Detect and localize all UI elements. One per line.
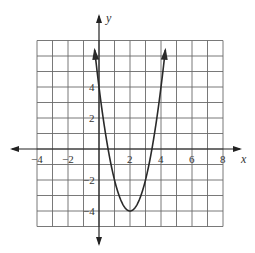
y-axis-up-arrow-icon — [96, 14, 102, 23]
x-axis-left-arrow-icon — [10, 146, 19, 152]
x-tick-label: 2 — [127, 153, 133, 165]
x-tick-label: 8 — [220, 153, 226, 165]
y-axis-label: y — [105, 11, 112, 25]
y-axis-down-arrow-icon — [96, 237, 102, 246]
x-tick-label: −4 — [31, 153, 43, 165]
y-tick-label: 2 — [89, 112, 95, 124]
x-tick-label: −2 — [62, 153, 74, 165]
y-tick-label: −2 — [83, 174, 95, 186]
grid — [37, 41, 223, 227]
curve-arrow-right-icon — [161, 48, 168, 60]
x-tick-label: 4 — [158, 153, 164, 165]
x-axis-label: x — [240, 152, 247, 166]
coordinate-plane: y x −4 −2 2 4 6 8 4 2 −2 −4 — [0, 0, 255, 253]
x-tick-label: 6 — [189, 153, 195, 165]
y-tick-label: −4 — [83, 205, 95, 217]
curve-arrow-left-icon — [92, 48, 99, 60]
y-tick-label: 4 — [89, 81, 95, 93]
